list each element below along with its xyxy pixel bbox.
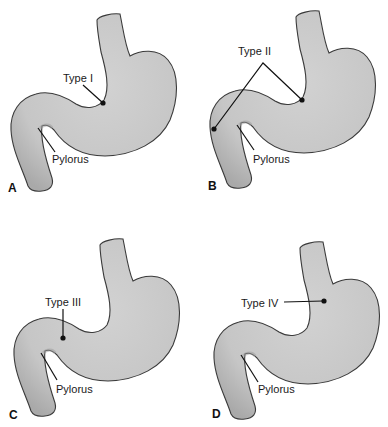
panel-letter: A [8, 181, 17, 195]
panel-b: Type II Pylorus B [208, 11, 376, 193]
stomach-ulcer-figure: Type I Pylorus A Type II Pylorus B Type … [0, 0, 388, 427]
type-label: Type II [238, 45, 271, 57]
ulcer-site-marker [100, 100, 105, 105]
type-i-leader-line [83, 85, 103, 103]
panel-letter: C [9, 408, 18, 422]
panel-letter: D [212, 407, 221, 421]
stomach-illustration [14, 239, 180, 416]
panel-a: Type I Pylorus A [8, 14, 177, 195]
ulcer-site-marker-body [299, 97, 304, 102]
stomach-illustration [214, 242, 380, 419]
panel-c: Type III Pylorus C [9, 239, 180, 422]
pylorus-label: Pylorus [258, 383, 295, 395]
stomach-illustration [210, 11, 376, 188]
pylorus-label: Pylorus [52, 153, 89, 165]
type-label: Type III [45, 296, 81, 308]
type-label: Type IV [241, 297, 279, 309]
panel-letter: B [208, 179, 217, 193]
type-label: Type I [63, 72, 93, 84]
ulcer-site-marker [60, 335, 65, 340]
pylorus-label: Pylorus [56, 383, 93, 395]
pylorus-label: Pylorus [253, 153, 290, 165]
ulcer-site-marker [321, 298, 326, 303]
stomach-illustration [11, 14, 177, 191]
ulcer-site-marker-duodenum [211, 126, 216, 131]
panel-d: Type IV Pylorus D [212, 242, 380, 421]
